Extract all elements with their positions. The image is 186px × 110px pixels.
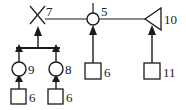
node-11[interactable]: 11 [144,63,176,80]
node-6c-square [85,63,101,79]
edge-6c-to-5-arrowhead [89,25,97,35]
edge-bar-to-7-arrowhead [34,26,42,36]
node-9-circle [12,62,26,76]
node-10[interactable]: 10 [145,8,177,30]
node-8-label: 8 [65,62,72,77]
node-6a-label: 6 [29,90,36,105]
node-7[interactable]: 7 [30,4,53,24]
diagram-canvas: 7 5 10 9 8 6 6 [0,0,186,110]
node-7-label: 7 [46,4,53,19]
diagram-svg: 7 5 10 9 8 6 6 [0,0,186,110]
node-6a-square [11,89,26,104]
node-6c-label: 6 [104,65,111,80]
node-9[interactable]: 9 [12,62,35,77]
node-6b-label: 6 [66,90,73,105]
node-10-triangle [145,8,161,30]
node-9-label: 9 [28,62,35,77]
node-6a[interactable]: 6 [11,89,36,105]
node-5-label: 5 [101,4,108,19]
node-8-circle [49,62,63,76]
node-10-label: 10 [164,12,177,27]
node-11-label: 11 [163,65,176,80]
node-5-circle [87,13,99,25]
node-11-square [144,63,160,79]
node-6b[interactable]: 6 [48,89,73,105]
node-6b-square [48,89,63,104]
node-8[interactable]: 8 [49,62,72,77]
node-6c[interactable]: 6 [85,63,111,80]
node-5[interactable]: 5 [87,4,108,25]
